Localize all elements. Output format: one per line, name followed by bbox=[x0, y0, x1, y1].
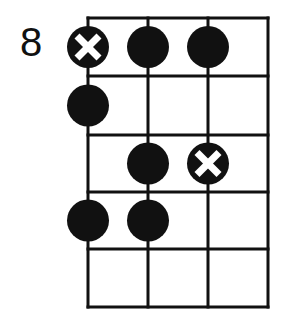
fretboard-grid bbox=[88, 18, 268, 307]
note-dot-icon bbox=[67, 200, 109, 242]
root-note-cross-icon bbox=[187, 143, 229, 185]
root-note-cross-icon bbox=[67, 26, 109, 68]
note-dot-icon bbox=[187, 26, 229, 68]
note-dot-icon bbox=[127, 143, 169, 185]
note-dot-icon bbox=[67, 85, 109, 127]
fretboard-diagram bbox=[0, 0, 292, 318]
note-dot-icon bbox=[127, 26, 169, 68]
note-dot-icon bbox=[127, 200, 169, 242]
